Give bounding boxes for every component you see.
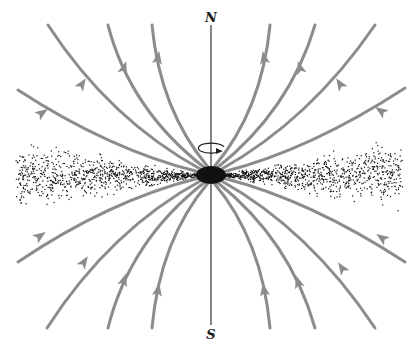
central-star [196, 166, 226, 184]
magnetosphere-diagram [0, 0, 420, 355]
field-arrow-icon [77, 253, 92, 269]
accretion-disk-left [16, 144, 199, 205]
field-arrow-icon [334, 259, 349, 275]
diagram-canvas: N S [0, 0, 420, 355]
south-pole-label: S [206, 328, 215, 341]
field-arrow-icon [32, 228, 48, 244]
field-line-lr4 [223, 178, 405, 262]
north-pole-label: N [205, 11, 217, 24]
field-line-ur3 [220, 25, 375, 170]
field-line-ul1 [18, 90, 199, 172]
